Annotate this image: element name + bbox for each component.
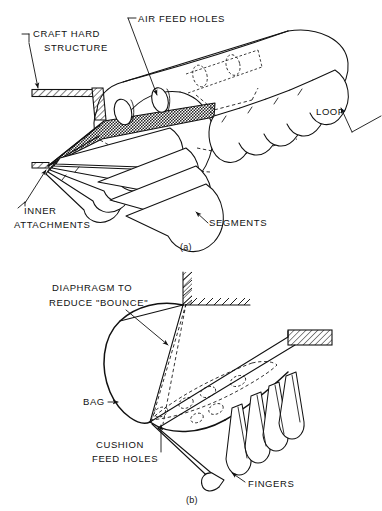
- cushion-feed-holes-label-line2: FEED HOLES: [92, 453, 158, 464]
- craft-hard-structure-bar: [32, 90, 95, 97]
- panel-b: DIAPHRAGM TO REDUCE "BOUNCE" BAG CUSHION…: [49, 272, 332, 505]
- technical-diagram: CRAFT HARD STRUCTURE AIR FEED HOLES LOOP…: [0, 0, 382, 511]
- loop-label: LOOP: [316, 106, 345, 117]
- inner-attachment-stub: [32, 163, 49, 169]
- ceiling-horizontal-hatched: [183, 298, 250, 305]
- label-air-feed-holes: AIR FEED HOLES: [128, 13, 225, 95]
- bag-label: BAG: [83, 396, 105, 407]
- cushion-feed-holes-label-line1: CUSHION: [96, 439, 144, 450]
- air-feed-hole-2: [149, 86, 171, 114]
- inner-attachments-label-line2: ATTACHMENTS: [14, 219, 90, 230]
- outer-attachment-block: [288, 330, 332, 345]
- panel-a: CRAFT HARD STRUCTURE AIR FEED HOLES LOOP…: [14, 13, 381, 252]
- label-cushion-feed-holes: CUSHION FEED HOLES: [92, 425, 161, 464]
- fingers-label: FINGERS: [248, 478, 294, 489]
- figure-container: CRAFT HARD STRUCTURE AIR FEED HOLES LOOP…: [0, 0, 382, 511]
- panel-b-caption: (b): [186, 495, 198, 505]
- diaphragm-label-line1: DIAPHRAGM TO: [52, 282, 132, 293]
- inner-attachments-label-line1: INNER: [24, 205, 57, 216]
- skirt-front-sheet: [152, 424, 224, 491]
- segments-label: SEGMENTS: [209, 217, 267, 228]
- air-feed-holes-far-hidden: [186, 50, 262, 93]
- air-feed-holes-label: AIR FEED HOLES: [138, 13, 225, 24]
- wall-vertical-hatched: [183, 272, 192, 305]
- diaphragm-label-line2: REDUCE "BOUNCE": [49, 297, 148, 308]
- panel-a-caption: (a): [180, 242, 192, 252]
- label-craft-hard-structure: CRAFT HARD STRUCTURE: [22, 28, 108, 88]
- label-fingers: FINGERS: [232, 473, 294, 489]
- fingers-group: [226, 372, 304, 475]
- craft-hard-structure-label-line2: STRUCTURE: [44, 42, 108, 53]
- craft-hard-structure-label-line1: CRAFT HARD: [33, 28, 100, 39]
